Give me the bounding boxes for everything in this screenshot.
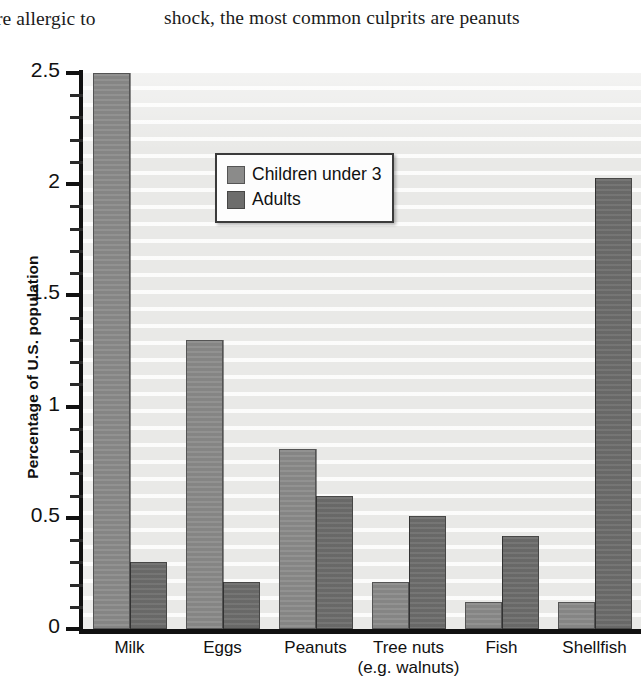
- chart-legend: Children under 3 Adults: [215, 153, 394, 223]
- bar-texture: [131, 563, 166, 628]
- y-tick-minor-0.7: [70, 472, 83, 475]
- bar-peanuts-children: [279, 449, 316, 629]
- y-tick-label-2: 2: [48, 169, 60, 193]
- legend-label-children: Children under 3: [252, 164, 381, 185]
- y-tick-major-0: [66, 627, 83, 631]
- bar-texture: [596, 179, 631, 628]
- bar-texture: [410, 517, 445, 628]
- bar-pair-separator: [130, 73, 131, 629]
- y-tick-minor-0.1: [70, 606, 83, 609]
- y-tick-minor-0.4: [70, 539, 83, 542]
- bar-texture: [224, 583, 259, 628]
- y-tick-minor-2.1: [70, 161, 83, 164]
- y-tick-minor-1.1: [70, 383, 83, 386]
- y-tick-minor-0.8: [70, 450, 83, 453]
- x-axis-label-line1: Milk: [114, 638, 144, 657]
- y-tick-major-1: [66, 405, 83, 409]
- bar-texture: [466, 603, 501, 628]
- x-axis-label-shellfish: Shellfish: [536, 638, 641, 658]
- bar-tree-nuts-e-g-walnuts-children: [372, 582, 409, 629]
- bar-pair-separator: [223, 340, 224, 629]
- bar-texture: [187, 341, 222, 628]
- bar-fish-adults: [502, 536, 539, 629]
- y-tick-label-1.5: 1.5: [31, 280, 60, 304]
- bar-texture: [94, 74, 129, 628]
- bar-pair-separator: [595, 178, 596, 629]
- y-tick-minor-0.3: [70, 561, 83, 564]
- x-axis-label-line1: Peanuts: [284, 638, 346, 657]
- bar-texture: [373, 583, 408, 628]
- bar-milk-adults: [130, 562, 167, 629]
- y-tick-major-1.5: [66, 293, 83, 297]
- bar-shellfish-children: [558, 602, 595, 629]
- bar-texture: [317, 497, 352, 628]
- y-tick-major-2.5: [66, 71, 83, 75]
- bar-tree-nuts-e-g-walnuts-adults: [409, 516, 446, 629]
- bar-pair-separator: [316, 449, 317, 629]
- y-tick-minor-2.4: [70, 94, 83, 97]
- bar-pair-separator: [409, 516, 410, 629]
- bar-eggs-children: [186, 340, 223, 629]
- y-tick-minor-1.2: [70, 361, 83, 364]
- y-tick-major-2: [66, 182, 83, 186]
- bar-eggs-adults: [223, 582, 260, 629]
- y-tick-minor-2.3: [70, 116, 83, 119]
- body-text-left-column: re allergic to: [0, 8, 96, 30]
- y-tick-minor-1.7: [70, 250, 83, 253]
- y-tick-minor-0.2: [70, 584, 83, 587]
- x-axis-label-line1: Shellfish: [562, 638, 626, 657]
- bar-texture: [503, 537, 538, 628]
- y-tick-minor-0.6: [70, 495, 83, 498]
- x-axis-label-line1: Eggs: [203, 638, 242, 657]
- y-tick-minor-1.9: [70, 205, 83, 208]
- legend-label-adults: Adults: [252, 189, 301, 210]
- legend-swatch-children-icon: [227, 166, 245, 184]
- y-tick-minor-1.8: [70, 228, 83, 231]
- y-tick-major-0.5: [66, 516, 83, 520]
- y-tick-minor-1.6: [70, 272, 83, 275]
- x-axis-line: [79, 629, 641, 634]
- y-tick-minor-1.3: [70, 339, 83, 342]
- x-axis-label-line1: Fish: [485, 638, 517, 657]
- page-body-text: re allergic to shock, the most common cu…: [0, 0, 641, 58]
- x-axis-label-line2: (e.g. walnuts): [350, 658, 467, 678]
- y-tick-minor-1.4: [70, 317, 83, 320]
- y-tick-label-0.5: 0.5: [31, 503, 60, 527]
- y-axis-line: [79, 70, 83, 632]
- bar-peanuts-adults: [316, 496, 353, 629]
- bar-texture: [280, 450, 315, 628]
- legend-item-children: Children under 3: [227, 162, 382, 187]
- legend-item-adults: Adults: [227, 187, 382, 212]
- y-tick-minor-0.9: [70, 428, 83, 431]
- y-tick-label-0: 0: [48, 614, 60, 638]
- y-tick-label-1: 1: [48, 392, 60, 416]
- body-text-right-column: shock, the most common culprits are pean…: [164, 7, 520, 29]
- legend-swatch-adults-icon: [227, 191, 245, 209]
- x-axis-label-line1: Tree nuts: [373, 638, 444, 657]
- bar-fish-children: [465, 602, 502, 629]
- bar-chart-figure: Percentage of U.S. population 00.511.522…: [0, 58, 641, 691]
- bar-shellfish-adults: [595, 178, 632, 629]
- bar-milk-children: [93, 73, 130, 629]
- bar-pair-separator: [502, 536, 503, 629]
- bar-texture: [559, 603, 594, 628]
- y-tick-label-2.5: 2.5: [31, 58, 60, 82]
- y-tick-minor-2.2: [70, 139, 83, 142]
